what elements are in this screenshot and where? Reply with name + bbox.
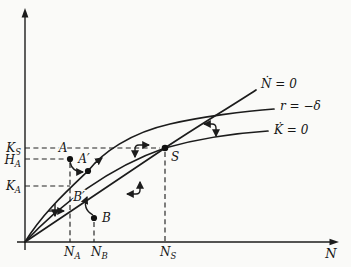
label-r-equals-minus-delta: r = −δ: [280, 99, 321, 113]
label-point-b: B: [101, 211, 111, 225]
curve-r-equals-minus-delta: [25, 109, 274, 242]
curve-n-dot-zero: [25, 90, 256, 242]
ytick-ka: KA: [5, 179, 21, 195]
label-point-s: S: [171, 150, 179, 164]
phase-arrows-left-down: [204, 124, 216, 136]
label-k-dot-zero: K̇ = 0: [273, 122, 309, 137]
label-point-a-prime: A′: [77, 152, 90, 166]
label-n-dot-zero: Ṅ = 0: [260, 75, 297, 91]
phase-arrows-up-left: [127, 182, 140, 194]
y-axis-arrowhead-icon: [22, 8, 29, 18]
xtick-nb: NB: [90, 245, 108, 261]
x-axis-label: N: [324, 246, 337, 261]
xtick-na: NA: [63, 245, 81, 261]
label-point-a: A: [58, 141, 68, 155]
x-axis-arrowhead-icon: [330, 239, 340, 246]
label-point-b-prime: B′: [72, 190, 85, 204]
xtick-ns: NS: [159, 245, 177, 261]
point-b: [91, 215, 97, 221]
phase-diagram-canvas: Ṅ = 0 r = −δ K̇ = 0 A A′ B B′ S KS HA KA…: [0, 0, 351, 267]
point-a-prime: [85, 168, 91, 174]
phase-diagram-figure: Ṅ = 0 r = −δ K̇ = 0 A A′ B B′ S KS HA KA…: [0, 0, 351, 267]
point-s: [162, 145, 169, 152]
point-a: [67, 156, 73, 162]
